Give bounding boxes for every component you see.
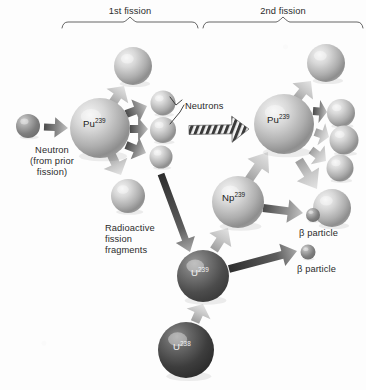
- fragment-r4: [327, 155, 354, 183]
- fragment-bottom-left: [111, 179, 145, 215]
- beta-particle-label-2: β particle: [297, 264, 336, 275]
- np239: [212, 176, 264, 231]
- bracket-group: [62, 17, 363, 28]
- fission-fragments-label: Radioactive fission fragments: [105, 223, 155, 257]
- neutron-c: [150, 146, 173, 170]
- fragment-r2: [327, 99, 355, 129]
- arrow-np239-to-beta1: [262, 196, 305, 224]
- incoming-neutron: [16, 114, 40, 139]
- diagram-canvas: [0, 0, 366, 390]
- arrow-pu2-to-r2: [312, 99, 328, 123]
- arrow-chain-hatched: [189, 116, 249, 143]
- arrow-neutron-to-pu1: [44, 117, 69, 138]
- fragment-top-left: [114, 47, 152, 87]
- fragment-r3: [330, 126, 359, 157]
- neutron-source-label: Neutron (from prior fission): [30, 145, 74, 179]
- fragment-r5: [313, 189, 351, 229]
- neutron-a: [151, 91, 176, 117]
- bracket-first-fission: [62, 17, 198, 28]
- pu239-first: [70, 98, 130, 161]
- neutrons-label: Neutrons: [185, 101, 224, 112]
- u239: [177, 250, 229, 305]
- bracket-second-fission: [203, 17, 363, 28]
- fragment-r1: [307, 44, 345, 84]
- beta-particle-label-1: β particle: [299, 228, 338, 239]
- arrow-pu2-to-r3: [311, 121, 333, 148]
- beta-particle-2: [301, 245, 316, 261]
- second-fission-label: 2nd fission: [243, 6, 323, 17]
- u238: [158, 322, 214, 381]
- fission-diagram: Pu239Pu239Np239U239U238 Neutron (from pr…: [0, 0, 366, 390]
- arrow-neutron-to-u239: [151, 170, 199, 255]
- arrow-u239-to-beta2: [226, 240, 300, 280]
- first-fission-label: 1st fission: [90, 6, 170, 17]
- pu239-second: [254, 94, 314, 157]
- arrow-pu1-to-neutron-b: [130, 117, 148, 140]
